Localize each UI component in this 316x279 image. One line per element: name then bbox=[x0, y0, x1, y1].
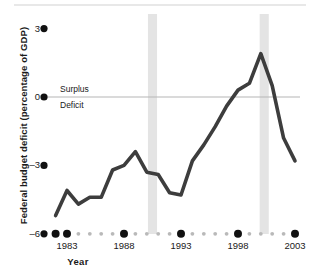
x-tick-dot-minor bbox=[134, 232, 138, 236]
x-tick-dot-minor bbox=[168, 232, 172, 236]
recession-bands bbox=[148, 14, 269, 234]
y-axis-tick-dots bbox=[40, 25, 47, 237]
x-tick-dot-minor bbox=[77, 232, 81, 236]
x-tick-dot-major bbox=[177, 230, 185, 238]
y-tick-label-minus3: –3 bbox=[14, 160, 40, 170]
y-tick-dot bbox=[40, 162, 47, 169]
x-tick-label-2003: 2003 bbox=[275, 240, 315, 251]
recession-band-1990 bbox=[148, 14, 157, 234]
surplus-label: Surplus bbox=[60, 84, 89, 94]
x-tick-dot-minor bbox=[88, 232, 92, 236]
recession-band-2001 bbox=[260, 14, 269, 234]
x-tick-dot-minor bbox=[259, 232, 263, 236]
x-tick-label-1983: 1983 bbox=[47, 240, 87, 251]
y-tick-label-minus6: –6 bbox=[14, 229, 40, 239]
x-tick-dot-major bbox=[120, 230, 128, 238]
x-tick-dot-minor bbox=[99, 232, 103, 236]
x-tick-dot-major bbox=[52, 230, 60, 238]
x-tick-dot-minor bbox=[191, 232, 195, 236]
x-tick-dot-minor bbox=[202, 232, 206, 236]
x-tick-dot-minor bbox=[248, 232, 252, 236]
x-tick-dot-minor bbox=[270, 232, 274, 236]
y-tick-dot bbox=[40, 25, 47, 32]
y-tick-label-0: 0 bbox=[14, 92, 40, 102]
x-tick-dot-minor bbox=[111, 232, 115, 236]
x-tick-dot-minor bbox=[282, 232, 286, 236]
y-tick-dot bbox=[40, 93, 47, 100]
chart-figure: Federal budget deficit (percentage of GD… bbox=[0, 0, 316, 279]
y-axis-title: Federal budget deficit (percentage of GD… bbox=[18, 11, 29, 241]
deficit-series-line bbox=[56, 54, 295, 216]
x-tick-dot-minor bbox=[156, 232, 160, 236]
deficit-label: Deficit bbox=[60, 100, 84, 110]
x-tick-dot-minor bbox=[213, 232, 217, 236]
x-tick-dot-major bbox=[291, 230, 299, 238]
x-tick-dot-minor bbox=[145, 232, 149, 236]
budget-deficit-line-chart bbox=[0, 0, 316, 279]
x-tick-label-1988: 1988 bbox=[104, 240, 144, 251]
x-axis-title: Year bbox=[48, 256, 108, 267]
x-tick-dot-major bbox=[63, 230, 71, 238]
x-tick-label-1998: 1998 bbox=[218, 240, 258, 251]
x-tick-dot-minor bbox=[225, 232, 229, 236]
x-tick-label-1993: 1993 bbox=[161, 240, 201, 251]
x-tick-dot-major bbox=[234, 230, 242, 238]
y-tick-label-3: 3 bbox=[14, 24, 40, 34]
y-tick-dot bbox=[40, 230, 47, 237]
